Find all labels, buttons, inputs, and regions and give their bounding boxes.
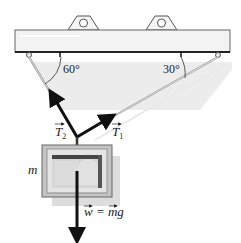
- tension-diagram: 60° 30° T2 T1 m w = mg: [0, 0, 241, 243]
- hook-left: [27, 53, 32, 58]
- ceiling-beam: [15, 30, 230, 52]
- svg-text:T1: T1: [112, 124, 123, 141]
- svg-text:w = mg: w = mg: [84, 204, 124, 219]
- lifting-eye-left: [68, 16, 99, 30]
- lifting-eye-right: [146, 16, 177, 30]
- svg-text:T2: T2: [55, 124, 66, 141]
- angle-label-60: 60°: [63, 62, 80, 76]
- beam-shadow: [30, 62, 232, 110]
- mass-label: m: [28, 162, 37, 177]
- t1-label: T1: [112, 124, 123, 141]
- angle-label-30: 30°: [163, 62, 180, 76]
- hook-right: [216, 53, 221, 58]
- t2-label: T2: [55, 124, 66, 141]
- mass-box: [42, 145, 120, 206]
- weight-label: w = mg: [84, 204, 124, 219]
